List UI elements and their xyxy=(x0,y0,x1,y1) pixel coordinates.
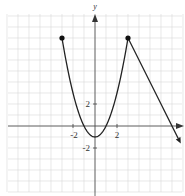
left-endpoint-dot xyxy=(59,35,64,40)
y-tick-label-neg2: -2 xyxy=(83,143,91,153)
y-tick-label-pos2: 2 xyxy=(86,99,91,109)
x-axis xyxy=(8,123,184,129)
x-tick-label-pos2: 2 xyxy=(115,130,120,140)
y-axis-label: y xyxy=(92,2,97,11)
function-graph: y -2 2 2 -2 xyxy=(0,0,185,196)
y-axis-arrow-icon xyxy=(92,14,98,22)
y-axis: y xyxy=(92,2,98,196)
peak-endpoint-dot xyxy=(125,35,130,40)
line-segment xyxy=(128,38,178,138)
x-tick-label-neg2: -2 xyxy=(70,130,78,140)
